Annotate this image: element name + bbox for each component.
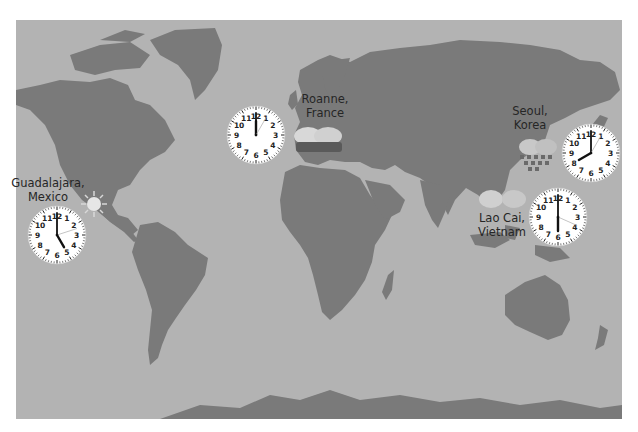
svg-text:4: 4 [605,159,610,168]
svg-text:8: 8 [38,241,43,250]
location-label-laocai: Lao Cai, Vietnam [472,211,532,239]
city-name: Guadalajara, [8,176,88,190]
location-label-guadalajara: Guadalajara, Mexico [8,176,88,204]
svg-text:6: 6 [54,251,59,260]
svg-text:2: 2 [572,203,577,212]
svg-text:7: 7 [45,248,50,257]
location-label-seoul: Seoul, Korea [505,104,555,132]
svg-text:2: 2 [605,139,610,148]
svg-text:3: 3 [608,149,613,158]
clock-laocai: 121234567891011 [528,187,588,251]
clock-seoul: 121234567891011 [561,123,621,187]
svg-text:11: 11 [576,132,586,141]
svg-text:3: 3 [575,213,580,222]
svg-text:9: 9 [35,231,40,240]
svg-text:11: 11 [42,214,52,223]
svg-text:8: 8 [572,159,577,168]
clock-face: 121234567891011 [27,205,87,265]
country-name: Vietnam [472,225,532,239]
svg-text:6: 6 [253,151,258,160]
svg-text:11: 11 [241,114,251,123]
clock-guadalajara: 121234567891011 [27,205,87,269]
svg-text:4: 4 [270,141,275,150]
svg-text:9: 9 [536,213,541,222]
city-name: Lao Cai, [472,211,532,225]
clock-face: 121234567891011 [528,187,588,247]
svg-text:8: 8 [539,223,544,232]
svg-text:11: 11 [543,196,553,205]
storm-cloud-icon [290,118,348,158]
svg-text:2: 2 [270,121,275,130]
country-name: Korea [505,118,555,132]
svg-text:4: 4 [572,223,577,232]
svg-text:4: 4 [71,241,76,250]
svg-text:1: 1 [565,196,570,205]
svg-text:5: 5 [64,248,69,257]
svg-text:7: 7 [579,166,584,175]
svg-text:5: 5 [598,166,603,175]
svg-text:8: 8 [237,141,242,150]
svg-text:9: 9 [569,149,574,158]
clock-face: 121234567891011 [561,123,621,183]
svg-text:6: 6 [588,169,593,178]
location-label-roanne: Roanne, France [290,92,360,120]
city-name: Seoul, [505,104,555,118]
svg-text:3: 3 [74,231,79,240]
svg-text:5: 5 [263,148,268,157]
svg-text:6: 6 [555,233,560,242]
clock-roanne: 121234567891011 [226,105,286,169]
svg-text:3: 3 [273,131,278,140]
svg-text:9: 9 [234,131,239,140]
city-name: Roanne, [290,92,360,106]
svg-text:1: 1 [64,214,69,223]
country-name: Mexico [8,190,88,204]
clock-face: 121234567891011 [226,105,286,165]
svg-text:7: 7 [546,230,551,239]
svg-text:5: 5 [565,230,570,239]
svg-text:7: 7 [244,148,249,157]
cloud-icon [478,186,528,210]
rain-cloud-icon [516,135,560,173]
